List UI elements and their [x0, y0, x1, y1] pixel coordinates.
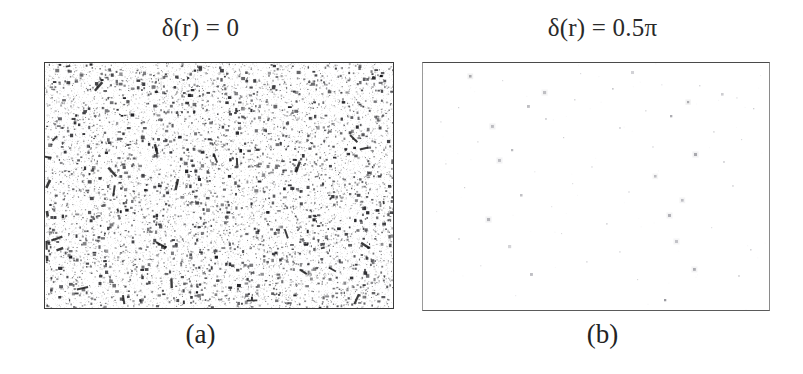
- speckle-canvas-b: [423, 63, 769, 310]
- panel-title-a: δ(r) = 0: [0, 13, 401, 43]
- panel-group-a: δ(r) = 0 (a): [0, 0, 401, 374]
- panel-caption-b: (b): [402, 318, 803, 350]
- speckle-canvas-a: [45, 63, 393, 308]
- panel-title-b: δ(r) = 0.5π: [402, 13, 803, 43]
- panel-caption-a: (a): [0, 318, 401, 350]
- speckle-image-b: [422, 62, 770, 311]
- figure-root: δ(r) = 0 (a) δ(r) = 0.5π (b): [0, 0, 803, 374]
- panel-group-b: δ(r) = 0.5π (b): [402, 0, 803, 374]
- speckle-image-a: [44, 62, 394, 309]
